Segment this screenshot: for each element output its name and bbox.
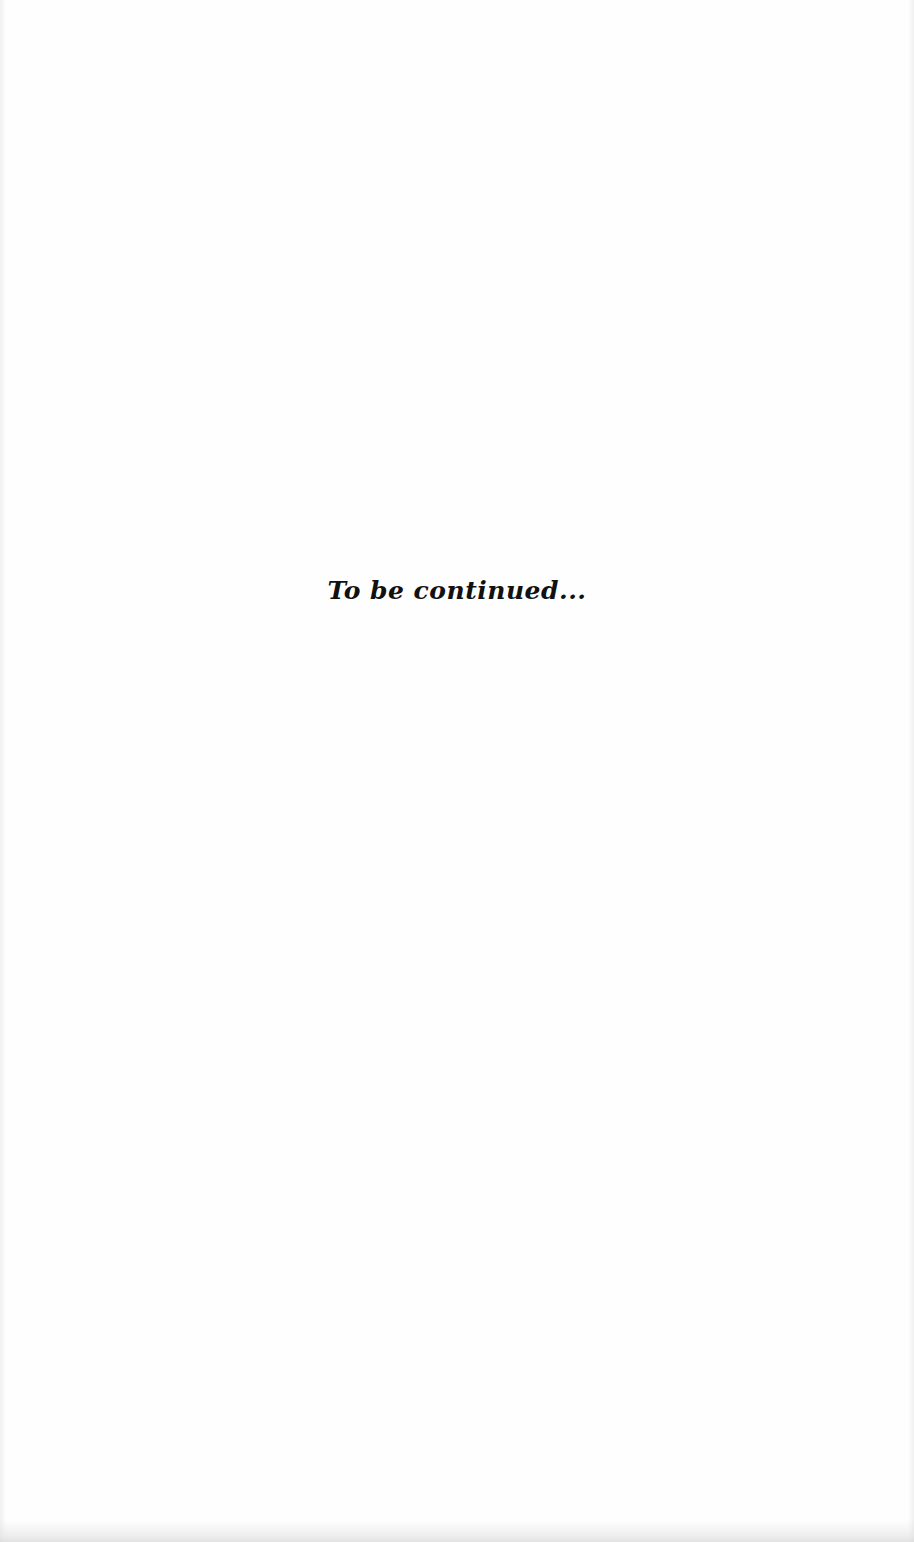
- scan-edge-left: [0, 0, 6, 1542]
- scan-edge-right: [908, 0, 914, 1542]
- to-be-continued-text: To be continued...: [0, 576, 914, 605]
- scan-edge-bottom: [0, 1520, 914, 1542]
- document-page: To be continued...: [0, 0, 914, 1542]
